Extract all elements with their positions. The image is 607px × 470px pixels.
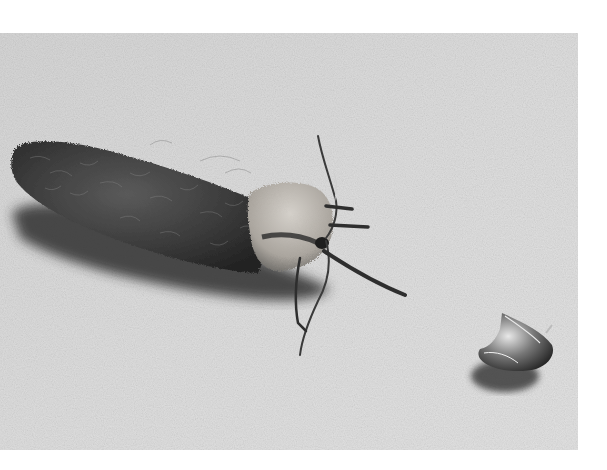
photograph <box>0 33 578 450</box>
photo-canvas <box>0 33 578 450</box>
